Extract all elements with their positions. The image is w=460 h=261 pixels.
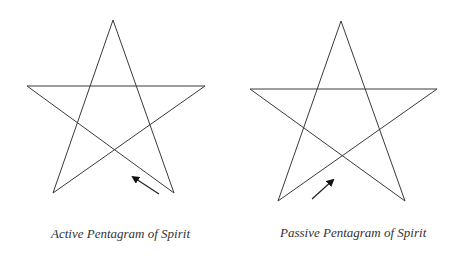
passive-pentagram-caption: Passive Pentagram of Spirit xyxy=(280,225,426,241)
active-pentagram xyxy=(27,20,205,194)
passive-pentagram-star xyxy=(250,21,437,201)
pentagram-diagrams xyxy=(0,0,460,261)
active-pentagram-caption: Active Pentagram of Spirit xyxy=(51,226,190,242)
passive-pentagram xyxy=(250,21,437,201)
passive-arrow-icon xyxy=(312,180,333,199)
active-pentagram-star xyxy=(27,20,205,193)
